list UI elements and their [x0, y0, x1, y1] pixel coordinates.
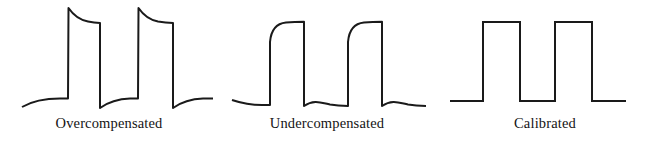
- waveform-path: [22, 8, 213, 108]
- panel-undercompensated: Undercompensated: [218, 0, 436, 151]
- waveform-trace-overcompensated: [0, 0, 218, 118]
- panel-label-calibrated: Calibrated: [436, 114, 654, 132]
- waveform-path: [232, 22, 426, 106]
- waveform-trace-calibrated: [436, 0, 654, 118]
- waveform-trace-undercompensated: [218, 0, 436, 118]
- panel-calibrated: Calibrated: [436, 0, 654, 151]
- waveform-panel-row: Overcompensated Undercompensated Calibra…: [0, 0, 654, 151]
- waveform-figure: Overcompensated Undercompensated Calibra…: [0, 0, 654, 151]
- panel-label-undercompensated: Undercompensated: [218, 114, 436, 132]
- waveform-path: [450, 22, 626, 101]
- panel-label-overcompensated: Overcompensated: [0, 114, 218, 132]
- panel-overcompensated: Overcompensated: [0, 0, 218, 151]
